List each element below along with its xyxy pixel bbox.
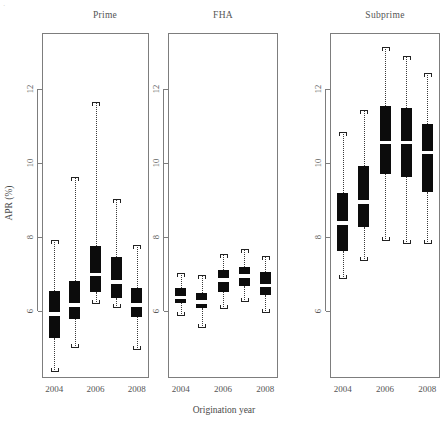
box-iqr xyxy=(422,124,433,192)
median-line xyxy=(422,151,433,155)
whisker-cap-upper xyxy=(424,73,432,77)
whisker-lower xyxy=(427,192,428,244)
box-plot-subprime-2008 xyxy=(0,0,448,428)
whisker-cap-lower xyxy=(424,240,432,244)
boxplot-figure: · APR (%)Origination yearPrime6810122004… xyxy=(0,0,448,428)
whisker-upper xyxy=(427,73,428,124)
